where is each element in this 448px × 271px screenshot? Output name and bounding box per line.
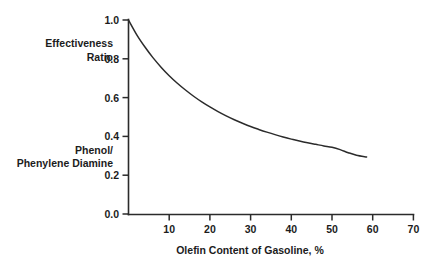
x-tick-label-30: 30	[245, 223, 257, 235]
x-axis-tick-labels: 10 20 30 40 50 60 70	[163, 223, 419, 235]
chart-figure: 1.0 0.8 0.6 0.4 0.2 0.0 10 20 30 40 50 6…	[0, 0, 448, 271]
x-tick-label-40: 40	[285, 223, 297, 235]
chart-plot-area: 1.0 0.8 0.6 0.4 0.2 0.0 10 20 30 40 50 6…	[0, 0, 448, 271]
x-tick-label-70: 70	[408, 223, 420, 235]
x-tick-label-20: 20	[204, 223, 216, 235]
y-tick-label-0.2: 0.2	[104, 169, 119, 181]
y-axis-ticks	[123, 20, 129, 214]
label-phenol: Phenol/	[75, 144, 113, 156]
y-tick-label-0.0: 0.0	[104, 208, 119, 220]
x-tick-label-50: 50	[326, 223, 338, 235]
label-effectiveness: Effectiveness	[45, 37, 113, 49]
x-axis-ticks	[169, 215, 413, 221]
x-axis-title: Olefin Content of Gasoline, %	[176, 244, 324, 256]
y-tick-label-0.6: 0.6	[104, 92, 119, 104]
effectiveness-ratio-curve	[129, 20, 367, 157]
label-ratio: Ratio	[87, 51, 113, 63]
y-tick-label-0.4: 0.4	[104, 130, 119, 142]
y-tick-label-1.0: 1.0	[104, 14, 119, 26]
label-phenylene-diamine: Phenylene Diamine	[17, 157, 113, 169]
x-tick-label-60: 60	[367, 223, 379, 235]
x-tick-label-10: 10	[163, 223, 175, 235]
y-axis-description-labels: Effectiveness Ratio Phenol/ Phenylene Di…	[17, 37, 113, 169]
